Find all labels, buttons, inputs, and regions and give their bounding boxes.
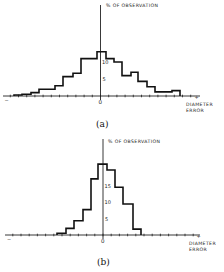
x-neg-label-a: −: [5, 97, 9, 103]
histogram-bars-b: [57, 164, 141, 235]
y-axis-label-b: % OF OBSERVATION: [108, 139, 160, 144]
histogram-bars-a: [14, 52, 180, 96]
y-tick-label: 10: [105, 199, 111, 205]
y-tick-label: 15: [105, 183, 111, 189]
y-tick-label: 5: [103, 76, 106, 82]
histogram-figure: 510 % OF OBSERVATION 0 − + DIAMETER ERRO…: [0, 0, 224, 272]
x-axis-label-a-line1: DIAMETER: [186, 102, 213, 107]
x-pos-label-b: +: [197, 233, 201, 239]
chart-b: 51015 % OF OBSERVATION 0 − + DIAMETER ER…: [5, 139, 216, 267]
x-zero-label-a: 0: [99, 99, 103, 105]
x-zero-label-b: 0: [101, 238, 105, 244]
y-tick-label: 5: [105, 216, 108, 222]
x-axis-label-b-line2: ERROR: [189, 247, 208, 252]
caption-b: (b): [97, 257, 110, 267]
x-pos-label-a: +: [195, 94, 199, 100]
caption-a: (a): [96, 119, 108, 129]
y-axis-label-a: % OF OBSERVATION: [106, 3, 158, 8]
y-tick-labels-a: 510: [102, 59, 108, 82]
x-axis-label-b-line1: DIAMETER: [189, 241, 216, 246]
y-tick-labels-b: 51015: [105, 183, 111, 222]
y-tick-label: 10: [102, 59, 108, 65]
x-neg-label-b: −: [7, 236, 11, 242]
x-axis-label-a-line2: ERROR: [186, 108, 205, 113]
chart-a: 510 % OF OBSERVATION 0 − + DIAMETER ERRO…: [3, 3, 213, 129]
